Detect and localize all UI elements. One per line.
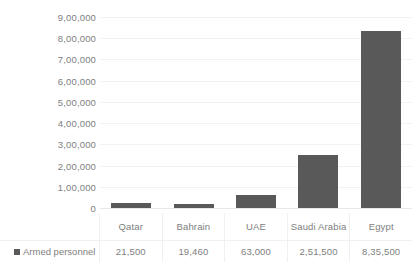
bar-slot: [162, 0, 224, 213]
table-category-label: Bahrain: [176, 221, 210, 232]
table-value-cell: 8,35,500: [350, 241, 412, 262]
bar[interactable]: [111, 203, 151, 208]
table-category-label: Qatar: [119, 221, 144, 232]
table-category-cell: Saudi Arabia: [288, 213, 351, 240]
y-axis-tick-label: 7,00,000: [0, 54, 96, 65]
y-axis: 9,00,0008,00,0007,00,0006,00,0005,00,000…: [0, 0, 96, 213]
table-value-cell: 63,000: [225, 241, 288, 262]
bar-chart-with-data-table: 9,00,0008,00,0007,00,0006,00,0005,00,000…: [0, 0, 412, 268]
y-axis-tick-label: 8,00,000: [0, 33, 96, 44]
bar-slot: [287, 0, 349, 213]
legend-square-icon: [14, 249, 20, 255]
y-axis-tick-label: 1,00,000: [0, 181, 96, 192]
table-category-cell: UAE: [225, 213, 288, 240]
legend-entry-armed-personnel: Armed personnel: [0, 241, 100, 262]
table-value-cell: 21,500: [100, 241, 163, 262]
y-axis-tick-label: 9,00,000: [0, 12, 96, 23]
y-axis-tick-label: 3,00,000: [0, 139, 96, 150]
table-category-label: UAE: [246, 221, 266, 232]
table-row-categories: QatarBahrainUAESaudi ArabiaEgypt: [0, 213, 412, 240]
bars-group: [100, 0, 412, 213]
table-value-cell: 19,460: [163, 241, 226, 262]
y-axis-tick-label: 0: [0, 203, 96, 214]
table-category-cell: Egypt: [350, 213, 412, 240]
data-table: QatarBahrainUAESaudi ArabiaEgypt Armed p…: [0, 213, 412, 261]
table-row: Armed personnel 21,50019,46063,0002,51,5…: [0, 240, 412, 262]
plot-area: 9,00,0008,00,0007,00,0006,00,0005,00,000…: [0, 0, 412, 213]
y-axis-tick-label: 6,00,000: [0, 75, 96, 86]
bar-slot: [350, 0, 412, 213]
bar[interactable]: [298, 155, 338, 208]
table-category-cell: Bahrain: [163, 213, 226, 240]
bar[interactable]: [361, 31, 401, 208]
bar[interactable]: [174, 204, 214, 208]
legend-label: Armed personnel: [23, 246, 95, 257]
table-category-label: Saudi Arabia: [291, 221, 347, 232]
bar-slot: [225, 0, 287, 213]
bar-slot: [100, 0, 162, 213]
table-value-cell: 2,51,500: [288, 241, 351, 262]
bar[interactable]: [236, 195, 276, 208]
y-axis-tick-label: 2,00,000: [0, 160, 96, 171]
table-category-cell: Qatar: [100, 213, 163, 240]
y-axis-tick-label: 5,00,000: [0, 96, 96, 107]
table-category-label: Egypt: [369, 221, 394, 232]
table-corner-cell: [0, 213, 100, 240]
y-axis-tick-label: 4,00,000: [0, 118, 96, 129]
